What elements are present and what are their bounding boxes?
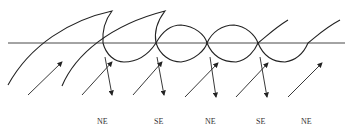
up-arrow: [133, 62, 162, 95]
up-arrow: [236, 63, 268, 97]
curve-1: [8, 11, 156, 85]
curve-5: [258, 20, 288, 43]
label-se-2: SE: [256, 117, 265, 126]
up-arrow: [288, 63, 322, 97]
wave-curves: [8, 11, 340, 86]
curve-6: [308, 20, 340, 43]
down-arrow: [210, 57, 216, 97]
up-arrow: [28, 62, 62, 95]
curve-3: [156, 25, 258, 62]
label-se-1: SE: [154, 117, 163, 126]
label-ne-2: NE: [205, 117, 216, 126]
down-arrow: [260, 57, 267, 97]
up-arrow: [82, 62, 112, 95]
label-ne-3: NE: [301, 117, 312, 126]
down-arrow: [157, 57, 164, 95]
label-ne-1: NE: [97, 117, 108, 126]
wave-diagram: NE SE NE SE NE: [0, 0, 350, 133]
arrows: [28, 57, 322, 97]
curve-2: [62, 11, 207, 86]
